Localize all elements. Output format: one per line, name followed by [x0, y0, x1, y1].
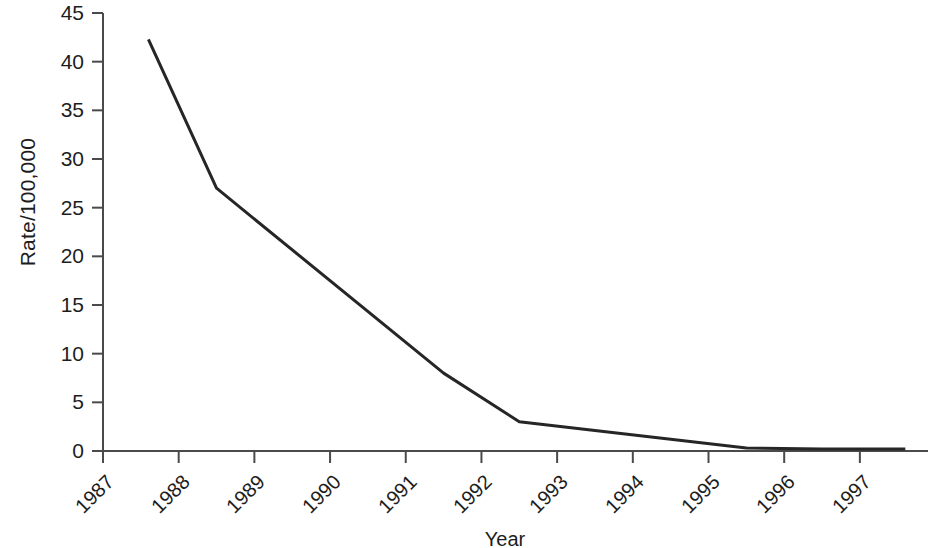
- y-axis-tick-marks: [92, 13, 103, 451]
- data-series-group: [148, 39, 905, 449]
- plot-area: [0, 0, 928, 548]
- x-axis-tick-marks: [103, 451, 860, 463]
- axis-lines: [103, 13, 928, 451]
- line-chart: Rate/100,000 Year 051015202530354045 198…: [0, 0, 928, 548]
- data-line-rate: [148, 39, 905, 449]
